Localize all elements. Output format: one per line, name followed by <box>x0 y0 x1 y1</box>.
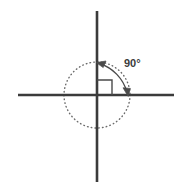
diagram-canvas: 90° <box>0 0 188 196</box>
right-angle-marker-icon <box>97 80 112 95</box>
angle-label: 90° <box>124 57 141 69</box>
coordinate-axes-diagram: 90° <box>0 0 188 196</box>
